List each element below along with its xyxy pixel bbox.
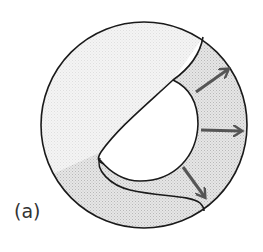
arrow-right	[201, 130, 240, 131]
panel-label: (a)	[14, 200, 40, 222]
